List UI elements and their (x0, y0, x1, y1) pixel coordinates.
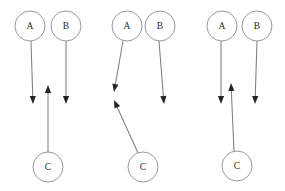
edge-line (115, 103, 138, 153)
arrowhead-icon (228, 83, 234, 91)
arrowhead-icon (218, 96, 224, 104)
node-label: A (219, 21, 226, 31)
arrowhead-icon (160, 96, 166, 104)
panel-3-node-C[interactable]: C (222, 151, 252, 181)
node-label: A (124, 21, 131, 31)
panel-2: ABC (112, 11, 175, 182)
arrowhead-icon (30, 96, 36, 104)
panel-2-node-A[interactable]: A (112, 11, 142, 41)
panel-2-edge-A-down (112, 41, 123, 92)
causal-graph-panels: ABCABCABC (0, 0, 285, 191)
panel-3: ABC (207, 11, 272, 181)
arrowhead-icon (63, 96, 69, 104)
panel-3-node-B[interactable]: B (242, 11, 272, 41)
arrowhead-icon (252, 96, 258, 104)
panel-2-node-C[interactable]: C (128, 152, 158, 182)
edge-line (31, 41, 33, 101)
node-label: B (157, 21, 163, 31)
arrowhead-icon (114, 100, 120, 109)
panel-2-node-B[interactable]: B (145, 11, 175, 41)
panel-2-edge-B-down (159, 41, 166, 104)
panel-1-node-B[interactable]: B (51, 11, 81, 41)
edge-line (115, 41, 123, 89)
panel-1-edge-B-down (63, 41, 69, 104)
panel-1-node-A[interactable]: A (15, 11, 45, 41)
panel-3-edge-B-down (252, 41, 258, 104)
node-label: C (45, 162, 51, 172)
node-label: A (27, 21, 34, 31)
panel-3-node-A[interactable]: A (207, 11, 237, 41)
node-label: C (234, 161, 240, 171)
node-label: B (63, 21, 69, 31)
edge-line (159, 41, 164, 101)
edge-line (231, 86, 234, 151)
panel-1: ABC (15, 11, 81, 182)
node-label: B (254, 21, 260, 31)
arrowhead-icon (112, 84, 118, 92)
panels-root: ABCABCABC (15, 11, 272, 182)
node-label: C (140, 162, 146, 172)
panel-1-node-C[interactable]: C (33, 152, 63, 182)
panel-1-edge-C-up (45, 85, 51, 152)
arrowhead-icon (45, 85, 51, 93)
panel-3-edge-C-up (228, 83, 234, 151)
panel-3-edge-A-down (218, 41, 224, 104)
panel-2-edge-C-up (114, 100, 138, 153)
edge-line (255, 41, 257, 101)
diagram-canvas: ABCABCABC (0, 0, 285, 191)
panel-1-edge-A-down (30, 41, 36, 104)
